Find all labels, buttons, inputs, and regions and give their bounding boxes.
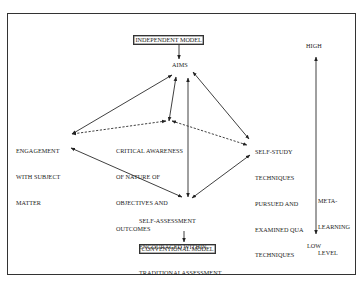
dashed-arrow-critical-selfstudy — [172, 121, 247, 145]
selfstudy-line-1: SELF-STUDY — [255, 148, 304, 157]
selfstudy-line-2: TECHNIQUES — [255, 174, 304, 183]
scale-high-label: HIGH — [306, 42, 322, 51]
engagement-line-2: WITH SUBJECT — [16, 173, 60, 182]
meta-line-2: LEARNING — [318, 223, 350, 232]
selfassessment-line-3: TRADITIONALASSESSMENT — [139, 269, 222, 278]
arrow-aims-critical — [169, 77, 176, 121]
conventional-model-box: CONVENTIONAL MODEL — [139, 244, 216, 254]
arrow-selfstudy-selfassessment — [192, 155, 250, 198]
meta-line-1: META- — [318, 197, 350, 206]
critical-line-1: CRITICAL AWARENESS — [116, 147, 183, 156]
engagement-line-3: MATTER — [16, 199, 60, 208]
self-study-node: SELF-STUDY TECHNIQUES PURSUED AND EXAMIN… — [255, 131, 304, 269]
engagement-line-1: ENGAGEMENT — [16, 147, 60, 156]
arrow-aims-selfstudy — [193, 72, 249, 139]
self-assessment-node: SELF-ASSESSMENT ENCOURAGED WITHIN TRADIT… — [139, 200, 222, 282]
critical-line-2: OF NATURE OF — [116, 173, 183, 182]
independent-model-box: INDEPENDENT MODEL — [133, 35, 204, 45]
selfassessment-line-1: SELF-ASSESSMENT — [139, 217, 222, 226]
selfstudy-line-5: TECHNIQUES — [255, 251, 304, 260]
selfstudy-line-3: PURSUED AND — [255, 200, 304, 209]
arrow-aims-engagement — [72, 75, 172, 134]
selfstudy-line-4: EXAMINED QUA — [255, 226, 304, 235]
engagement-node: ENGAGEMENT WITH SUBJECT MATTER — [16, 130, 60, 216]
meta-learning-level-label: META- LEARNING LEVEL — [318, 180, 350, 266]
meta-line-3: LEVEL — [318, 249, 350, 258]
aims-label: AIMS — [172, 61, 188, 70]
